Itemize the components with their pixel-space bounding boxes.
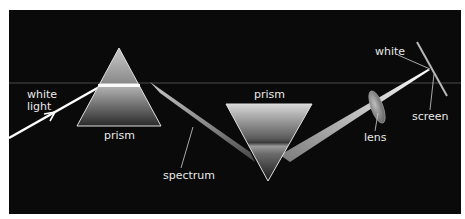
prism-2-label: prism	[254, 89, 285, 101]
prism-1-label: prism	[104, 130, 135, 142]
prism-1-highlight	[98, 84, 140, 87]
white-light-label: white light	[27, 89, 57, 113]
screen	[417, 42, 447, 96]
white-label: white	[375, 46, 405, 58]
spectrum-label: spectrum	[163, 170, 215, 182]
screen-label: screen	[412, 111, 449, 123]
spectrum-leader-line	[181, 127, 193, 168]
white-light-label-line-2: light	[27, 101, 57, 113]
lens-label: lens	[364, 132, 387, 144]
diagram-canvas	[0, 0, 465, 219]
screen-leader-line	[430, 74, 434, 110]
prism-2	[226, 104, 312, 181]
